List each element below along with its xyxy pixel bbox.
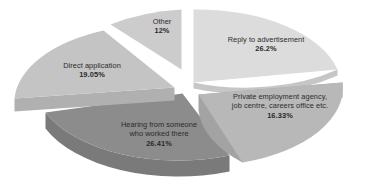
- pie-chart: Reply to advertisement 26.2% Private emp…: [0, 0, 370, 192]
- pie-chart-graphic: [0, 0, 370, 192]
- pie-slice-reply-to-advertisement-top: [194, 9, 338, 82]
- pie-slice-reply-to-advertisement[interactable]: [194, 9, 338, 93]
